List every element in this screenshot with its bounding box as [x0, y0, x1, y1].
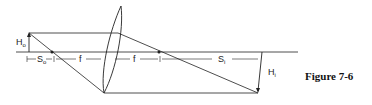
image-distance-label: Si [218, 54, 225, 65]
focal-right-label: f [133, 54, 136, 64]
ray-diagram: Ho So f f Si Hi [0, 0, 372, 105]
focal-left-label: f [79, 54, 82, 64]
figure-caption: Figure 7-6 [305, 70, 353, 82]
convex-lens [103, 6, 122, 93]
image-height-label: Hi [268, 67, 276, 78]
back-focal-point [158, 51, 161, 54]
object-height-label: Ho [16, 37, 27, 48]
object-distance-label: So [37, 54, 47, 65]
front-focal-point [51, 51, 54, 54]
image-arrow [258, 52, 262, 91]
